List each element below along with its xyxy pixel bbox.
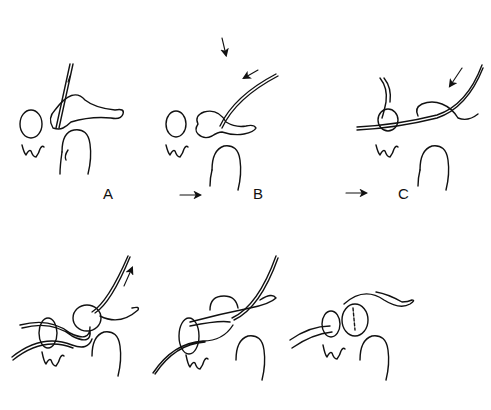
arrow-up-icon (124, 268, 132, 286)
arrow-down-left-icon (450, 68, 462, 86)
panel-a (20, 64, 123, 174)
panel-b (166, 38, 278, 190)
panel-e (153, 256, 278, 380)
arrow-left-icon (244, 70, 258, 78)
diagram-canvas (0, 0, 491, 410)
panel-f (290, 292, 414, 380)
panel-c (357, 65, 483, 190)
arrow-down-icon (222, 38, 226, 55)
panel-d (12, 256, 138, 376)
